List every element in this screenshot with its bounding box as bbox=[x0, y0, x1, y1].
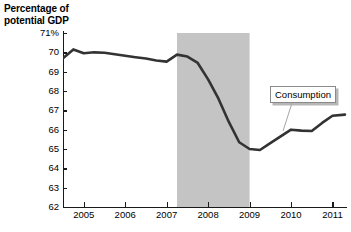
x-tick-label: 2007 bbox=[156, 210, 177, 220]
x-tick-mark bbox=[167, 202, 168, 208]
y-tick-mark bbox=[63, 130, 67, 131]
x-tick-mark bbox=[84, 202, 85, 208]
y-tick-mark bbox=[63, 52, 67, 53]
y-tick-label: 65 bbox=[48, 144, 59, 154]
x-tick-label: 2009 bbox=[239, 210, 260, 220]
y-tick-mark bbox=[63, 188, 67, 189]
y-tick-mark bbox=[63, 91, 67, 92]
y-tick-label: 66 bbox=[48, 125, 59, 135]
y-tick-mark bbox=[63, 33, 67, 34]
x-tick-mark bbox=[291, 202, 292, 208]
y-axis-ticks: 71%706968676665646362 bbox=[0, 0, 59, 232]
x-tick-label: 2011 bbox=[322, 210, 342, 220]
y-tick-label: 69 bbox=[48, 67, 59, 77]
chart-container: Percentage of potential GDP 71%706968676… bbox=[0, 0, 351, 232]
plot-area bbox=[63, 33, 347, 207]
x-tick-mark bbox=[208, 202, 209, 208]
y-tick-mark bbox=[63, 149, 67, 150]
y-tick-mark bbox=[63, 110, 67, 111]
y-tick-label: 63 bbox=[48, 183, 59, 193]
y-tick-label: 67 bbox=[48, 105, 59, 115]
x-tick-label: 2008 bbox=[198, 210, 219, 220]
x-tick-label: 2006 bbox=[115, 210, 136, 220]
x-tick-label: 2010 bbox=[280, 210, 301, 220]
y-tick-label: 70 bbox=[48, 47, 59, 57]
series-plot bbox=[63, 33, 347, 207]
x-tick-mark bbox=[250, 202, 251, 208]
consumption-callout-label: Consumption bbox=[270, 86, 336, 103]
x-tick-mark bbox=[125, 202, 126, 208]
y-tick-mark bbox=[63, 207, 67, 208]
y-tick-mark bbox=[63, 72, 67, 73]
x-tick-mark bbox=[332, 202, 333, 208]
recession-band bbox=[177, 33, 250, 207]
x-tick-label: 2005 bbox=[73, 210, 94, 220]
y-tick-label: 71% bbox=[40, 28, 59, 38]
y-tick-mark bbox=[63, 168, 67, 169]
y-tick-label: 68 bbox=[48, 86, 59, 96]
y-tick-label: 64 bbox=[48, 163, 59, 173]
y-tick-label: 62 bbox=[48, 202, 59, 212]
